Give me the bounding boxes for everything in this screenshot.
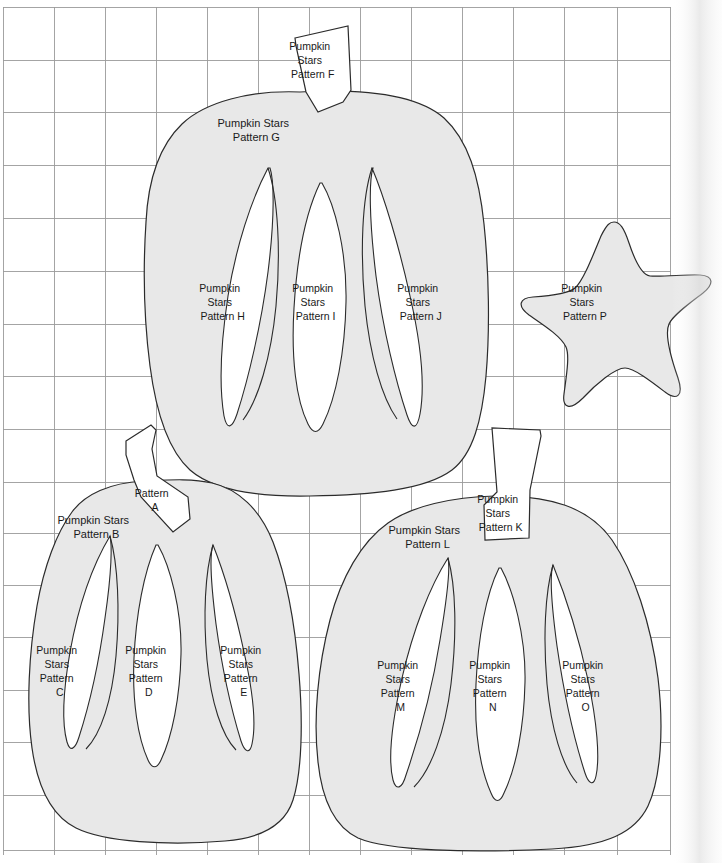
pattern-sheet: Pumpkin Stars Pattern G Pumpkin Stars Pa… — [0, 0, 722, 863]
page-edge-shadow — [672, 0, 722, 863]
pattern-sheet-canvas: Pumpkin Stars Pattern G Pumpkin Stars Pa… — [0, 0, 722, 863]
